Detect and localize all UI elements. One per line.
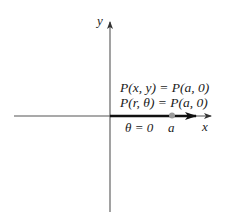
y-axis-label: y xyxy=(95,13,103,28)
polar-diagram: y x P(x, y) = P(a, 0) P(r, θ) = P(a, 0) … xyxy=(0,0,242,222)
point-a-label: a xyxy=(168,120,175,135)
point-a-marker xyxy=(169,113,175,119)
angle-label: θ = 0 xyxy=(125,120,154,135)
x-axis-label: x xyxy=(201,119,208,134)
cartesian-equation: P(x, y) = P(a, 0) xyxy=(119,80,210,95)
polar-equation: P(r, θ) = P(a, 0) xyxy=(119,95,208,110)
